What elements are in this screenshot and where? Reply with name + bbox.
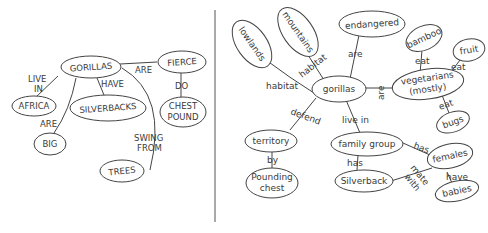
node-family-group: family group <box>331 132 403 156</box>
node-fruit: fruit <box>451 36 487 64</box>
node-endangered: endangered <box>339 11 405 37</box>
node-silverback: Silverback <box>335 170 393 192</box>
edge-label-eat-bamboo: eat <box>415 56 430 66</box>
svg-text:CHEST: CHEST <box>169 101 198 111</box>
concept-map-canvas: ARE LIVE IN HAVE DO ARE SWING FROM GORIL… <box>0 0 488 233</box>
edge-gorillas-fierce <box>120 62 157 64</box>
svg-text:territory: territory <box>253 136 291 146</box>
edge-label-eat-bugs: eat <box>437 97 455 112</box>
edge-label-have: HAVE <box>101 79 124 89</box>
node-africa: AFRICA <box>12 96 56 116</box>
svg-text:POUND: POUND <box>168 112 199 122</box>
svg-text:Pounding: Pounding <box>251 172 293 182</box>
edge-label-from: FROM <box>137 143 162 153</box>
edge-label-has-silverback: has <box>347 158 363 168</box>
edge-label-do: DO <box>175 81 189 91</box>
svg-text:chest: chest <box>260 183 285 193</box>
edge-label-are-endangered: are <box>348 49 363 59</box>
node-chest-pound: CHEST POUND <box>160 97 206 127</box>
svg-text:FIERCE: FIERCE <box>167 56 197 68</box>
svg-text:AFRICA: AFRICA <box>19 101 50 111</box>
node-females: females <box>425 139 475 172</box>
right-concept-map: habitat habitat are are eat eat eat defe… <box>224 0 487 205</box>
node-big: BIG <box>34 133 66 155</box>
svg-text:Silverback: Silverback <box>341 176 388 186</box>
edge-label-by: by <box>267 155 279 165</box>
edge-label-live: LIVE <box>28 74 46 84</box>
left-concept-map: ARE LIVE IN HAVE DO ARE SWING FROM GORIL… <box>12 51 206 182</box>
node-territory: territory <box>245 130 297 152</box>
node-gorillas-left: GORILLAS <box>61 56 121 78</box>
node-pounding-chest: Pounding chest <box>246 168 298 198</box>
edge-label-live-in: live in <box>342 115 369 125</box>
node-bamboo: bamboo <box>402 19 447 57</box>
node-mountains: mountains <box>270 0 327 63</box>
svg-text:gorillas: gorillas <box>323 84 356 94</box>
edge-label-in: IN <box>34 84 43 94</box>
node-trees: TREES <box>100 160 144 182</box>
edge-label-defend: defend <box>289 106 322 126</box>
svg-text:family group: family group <box>339 139 396 149</box>
node-silverbacks: SILVERBACKS <box>70 95 146 121</box>
svg-text:BIG: BIG <box>43 139 58 149</box>
node-gorillas-right: gorillas <box>312 76 366 102</box>
node-fierce: FIERCE <box>158 51 206 73</box>
edge-label-has-females: has <box>412 140 431 155</box>
edge-label-are-fierce: ARE <box>135 65 152 75</box>
edge-label-are-vegetarians: are <box>376 85 386 100</box>
node-lowlands: lowlands <box>224 13 280 74</box>
node-babies: babies <box>433 177 480 206</box>
edge-label-habitat-lowlands: habitat <box>266 81 298 91</box>
edge-label-swing: SWING <box>134 133 163 143</box>
node-bugs: bugs <box>434 107 473 137</box>
edge-label-are-big: ARE <box>40 119 57 129</box>
